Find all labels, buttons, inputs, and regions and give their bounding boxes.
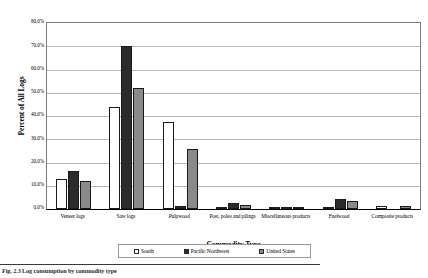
bar [281,207,292,209]
bar [335,199,346,209]
plot-area [46,22,421,210]
bar-group [56,23,91,209]
legend-swatch-icon [184,249,189,254]
y-axis-tick-label: 60.0% [18,66,44,71]
bar-chart: Percent of All Logs 80.0%70.0%60.0%50.0%… [0,14,428,232]
x-axis-tick-label: Composite products [366,213,419,220]
bar [323,207,334,209]
bar [347,201,358,209]
bar [121,46,132,209]
y-axis-tick-label: 0.0% [18,205,44,210]
legend-label: Pacific Northwest [191,248,230,254]
bar [56,179,67,209]
bar [133,88,144,209]
bar [400,206,411,209]
bars-layer [47,23,420,209]
legend-swatch-icon [259,249,264,254]
y-axis-tick-labels: 80.0%70.0%60.0%50.0%40.0%30.0%20.0%10.0%… [18,14,44,210]
legend-label: South [141,248,154,254]
bar-group [323,23,358,209]
y-axis-tick-label: 70.0% [18,43,44,48]
bar [163,122,174,209]
bar-group [216,23,251,209]
bar-group [269,23,304,209]
bar [228,203,239,210]
y-axis-tick-label: 30.0% [18,136,44,141]
bar [269,207,280,209]
x-axis-tick-label: Miscellaneous products [259,213,312,220]
caption-divider [0,264,320,265]
y-axis-tick-label: 80.0% [18,19,44,24]
legend-label: United States [266,248,295,254]
legend-entry: United States [259,248,295,254]
x-axis-tick-label: Veneer logs [46,213,99,220]
bar [187,149,198,209]
figure-caption: Fig. 2.3 Log consumption by commodity ty… [2,267,422,275]
y-axis-tick-label: 50.0% [18,89,44,94]
bar [293,207,304,209]
figure: Percent of All Logs 80.0%70.0%60.0%50.0%… [0,0,428,278]
bar-group [109,23,144,209]
y-axis-tick-label: 10.0% [18,182,44,187]
legend-entry: Pacific Northwest [184,248,230,254]
x-axis-tick-label: Pulpwood [153,213,206,220]
bar-group [163,23,198,209]
y-axis-tick-label: 20.0% [18,159,44,164]
bar [80,181,91,209]
bar [376,206,387,209]
bar-group [376,23,411,209]
bar [240,205,251,209]
legend-entry: South [134,248,154,254]
chart-legend: SouthPacific NorthwestUnited States [118,244,311,258]
x-axis-tick-labels: Veneer logsSaw logsPulpwoodPost, poles a… [46,213,421,239]
y-axis-tick-label: 40.0% [18,112,44,117]
x-axis-tick-label: Fuelwood [312,213,365,220]
legend-swatch-icon [134,249,139,254]
x-axis-tick-label: Post, poles and pilings [206,213,259,220]
x-axis-tick-label: Saw logs [99,213,152,220]
bar [68,171,79,209]
bar [216,207,227,209]
bar [109,107,120,209]
bar [175,206,186,209]
